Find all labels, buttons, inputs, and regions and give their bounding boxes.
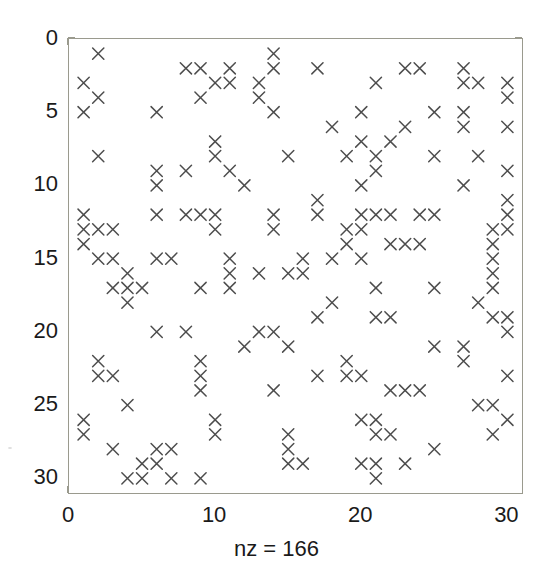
- spy-marker: [473, 297, 484, 308]
- spy-marker: [122, 282, 133, 293]
- spy-marker: [210, 209, 221, 220]
- spy-marker: [487, 268, 498, 279]
- spy-marker: [429, 341, 440, 352]
- spy-marker: [224, 282, 235, 293]
- spy-marker: [122, 473, 133, 484]
- spy-marker: [458, 77, 469, 88]
- spy-marker: [180, 165, 191, 176]
- spy-marker: [195, 92, 206, 103]
- spy-marker: [458, 63, 469, 74]
- spy-marker: [473, 77, 484, 88]
- spy-marker: [151, 180, 162, 191]
- spy-marker: [326, 121, 337, 132]
- spy-marker: [414, 238, 425, 249]
- spy-marker: [253, 268, 264, 279]
- spy-marker: [487, 400, 498, 411]
- spy-marker: [370, 209, 381, 220]
- spy-marker: [107, 224, 118, 235]
- y-tick-label: 15: [10, 247, 58, 269]
- spy-marker: [385, 209, 396, 220]
- spy-marker: [356, 224, 367, 235]
- spy-marker: [312, 312, 323, 323]
- spy-marker: [326, 253, 337, 264]
- y-tick-label: 5: [10, 100, 58, 122]
- spy-marker: [224, 253, 235, 264]
- spy-marker: [458, 180, 469, 191]
- spy-marker: [356, 209, 367, 220]
- spy-marker: [210, 224, 221, 235]
- spy-marker: [502, 195, 513, 206]
- spy-marker: [356, 253, 367, 264]
- spy-marker-layer: [69, 39, 522, 493]
- x-tick-label: 10: [202, 504, 226, 526]
- spy-marker: [78, 209, 89, 220]
- spy-marker: [312, 209, 323, 220]
- spy-marker: [502, 370, 513, 381]
- spy-marker: [283, 268, 294, 279]
- spy-marker: [400, 121, 411, 132]
- spy-marker: [487, 238, 498, 249]
- spy-marker: [356, 107, 367, 118]
- spy-marker: [224, 165, 235, 176]
- spy-marker: [370, 165, 381, 176]
- spy-marker: [224, 77, 235, 88]
- spy-marker: [195, 473, 206, 484]
- spy-marker: [78, 107, 89, 118]
- spy-marker: [385, 385, 396, 396]
- spy-marker: [429, 107, 440, 118]
- spy-marker: [93, 253, 104, 264]
- spy-marker: [385, 429, 396, 440]
- spy-marker: [78, 414, 89, 425]
- spy-marker: [268, 107, 279, 118]
- spy-marker: [429, 151, 440, 162]
- spy-marker: [268, 48, 279, 59]
- spy-marker: [487, 429, 498, 440]
- spy-marker: [370, 151, 381, 162]
- spy-marker: [502, 326, 513, 337]
- spy-marker: [93, 370, 104, 381]
- spy-marker: [326, 297, 337, 308]
- spy-marker: [166, 443, 177, 454]
- spy-marker: [93, 48, 104, 59]
- spy-marker: [356, 414, 367, 425]
- spy-marker: [473, 151, 484, 162]
- spy-marker: [78, 77, 89, 88]
- spy-marker: [487, 312, 498, 323]
- spy-marker: [151, 443, 162, 454]
- spy-marker: [239, 341, 250, 352]
- spy-marker: [136, 458, 147, 469]
- spy-marker: [400, 458, 411, 469]
- spy-marker: [487, 282, 498, 293]
- spy-marker: [268, 63, 279, 74]
- spy-marker: [356, 180, 367, 191]
- spy-marker: [341, 151, 352, 162]
- spy-marker: [487, 224, 498, 235]
- spy-marker: [458, 107, 469, 118]
- spy-marker: [195, 356, 206, 367]
- spy-marker: [502, 414, 513, 425]
- scan-artifact: [8, 447, 12, 449]
- spy-marker: [151, 253, 162, 264]
- spy-marker: [210, 414, 221, 425]
- spy-marker: [151, 165, 162, 176]
- spy-marker: [210, 136, 221, 147]
- spy-marker: [195, 282, 206, 293]
- spy-marker: [341, 224, 352, 235]
- spy-marker: [210, 151, 221, 162]
- spy-marker: [151, 458, 162, 469]
- spy-marker: [136, 473, 147, 484]
- spy-marker: [502, 224, 513, 235]
- spy-marker: [268, 385, 279, 396]
- spy-marker: [414, 385, 425, 396]
- spy-marker: [151, 107, 162, 118]
- spy-marker: [370, 77, 381, 88]
- spy-marker: [458, 356, 469, 367]
- spy-marker: [93, 356, 104, 367]
- spy-marker: [312, 370, 323, 381]
- spy-marker: [370, 282, 381, 293]
- spy-marker: [283, 341, 294, 352]
- spy-marker: [356, 136, 367, 147]
- spy-marker: [385, 312, 396, 323]
- spy-marker: [370, 458, 381, 469]
- spy-marker: [151, 326, 162, 337]
